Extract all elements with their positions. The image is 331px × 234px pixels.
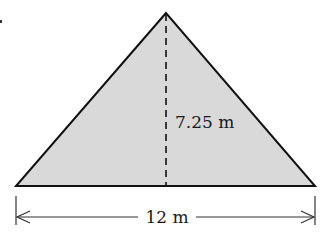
base-label: 12 m — [145, 207, 188, 227]
height-label: 7.25 m — [175, 112, 234, 132]
triangle-diagram: 7.25 m 12 m — [0, 0, 331, 234]
corner-mark — [0, 20, 2, 23]
